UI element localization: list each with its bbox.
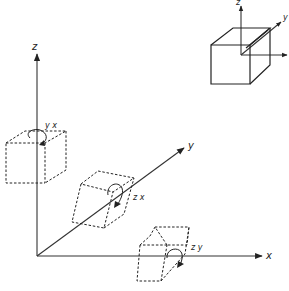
cube-zx-front-face [72,184,113,228]
rotation-arrowhead-yx-icon [39,140,45,146]
cube-yx-right-face [45,131,66,183]
ref-cube-inner-edge [246,30,268,48]
reference-cube: z y [211,0,288,84]
sheared-cube-zy: z y [137,227,203,281]
cube-zy-top-face [155,227,189,245]
cube-yx-front-face [6,143,45,183]
z-axis-label: z [31,41,38,52]
rotation-arrowhead-zy-icon [177,261,184,268]
cube-zy-label: z y [190,243,203,252]
cube-zy-front-face [137,245,167,281]
cube-zx-label: z x [132,193,145,202]
ref-y-label: y [282,13,288,22]
ref-z-label: z [235,0,241,7]
cube-zy-top-back-edge [140,227,155,245]
cube-zx-top-face [81,171,134,192]
y-axis-label: y [187,140,195,151]
x-axis-label: x [265,250,272,261]
sheared-cube-zx: z x [72,171,145,228]
cube-yx-label: y x [44,121,57,130]
main-axes: z y x [31,41,272,261]
cube-yx-top-face [6,131,66,143]
ref-cube-front-face [211,45,250,84]
sheared-cube-yx: y x [6,121,66,183]
rotation-arrowhead-zx-icon [114,201,121,208]
shear-diagram: z y z y x y x z x z y [0,0,289,291]
ref-y-axis [241,22,281,55]
y-axis [37,148,184,256]
